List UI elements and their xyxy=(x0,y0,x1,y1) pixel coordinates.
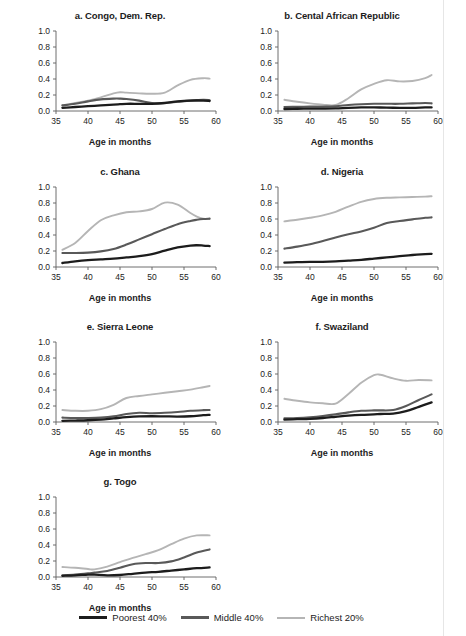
x-tick-label: 45 xyxy=(115,116,125,126)
y-tick-label: 0.4 xyxy=(38,540,50,550)
x-tick-label: 50 xyxy=(147,427,157,437)
x-tick-label: 60 xyxy=(211,116,221,126)
x-axis-title: Age in months xyxy=(236,293,448,303)
series-line-richest-20 xyxy=(62,202,209,249)
x-axis-title: Age in months xyxy=(14,137,226,147)
x-tick-label: 55 xyxy=(179,116,189,126)
x-tick-label: 40 xyxy=(305,427,315,437)
x-tick-label: 55 xyxy=(179,427,189,437)
chart-legend: Poorest 40%Middle 40%Richest 20% xyxy=(0,612,443,623)
x-tick-label: 55 xyxy=(179,272,189,282)
y-tick-label: 0.4 xyxy=(38,230,50,240)
panel-title: g. Togo xyxy=(14,476,226,487)
legend-label-richest: Richest 20% xyxy=(310,612,363,623)
series-line-poorest-40 xyxy=(284,107,431,109)
x-tick-label: 45 xyxy=(337,427,347,437)
x-tick-label: 50 xyxy=(147,272,157,282)
chart-panel-4: d. Nigeria0.00.20.40.60.81.0354045505560… xyxy=(236,166,448,311)
chart-panel-6: f. Swaziland0.00.20.40.60.81.03540455055… xyxy=(236,321,448,466)
plot-area: 0.00.20.40.60.81.0354045505560 xyxy=(14,23,226,133)
plot-area: 0.00.20.40.60.81.0354045505560 xyxy=(14,489,226,599)
x-tick-label: 35 xyxy=(273,116,283,126)
x-tick-label: 35 xyxy=(51,427,61,437)
panel-title: d. Nigeria xyxy=(236,166,448,177)
panel-title: f. Swaziland xyxy=(236,321,448,332)
chart-panel-1: a. Congo, Dem. Rep.0.00.20.40.60.81.0354… xyxy=(14,10,226,155)
x-tick-label: 60 xyxy=(433,272,443,282)
y-tick-label: 0.0 xyxy=(38,106,50,116)
y-tick-label: 0.4 xyxy=(260,230,272,240)
legend-item-poorest: Poorest 40% xyxy=(79,612,166,623)
x-tick-label: 45 xyxy=(337,272,347,282)
x-tick-label: 40 xyxy=(305,116,315,126)
y-tick-label: 0.6 xyxy=(260,369,272,379)
series-line-richest-20 xyxy=(284,374,431,404)
y-tick-label: 0.2 xyxy=(260,246,272,256)
y-tick-label: 0.2 xyxy=(38,401,50,411)
series-line-richest-20 xyxy=(284,196,431,221)
chart-panel-2: b. Cental African Republic0.00.20.40.60.… xyxy=(236,10,448,155)
x-tick-label: 55 xyxy=(401,272,411,282)
y-tick-label: 0.4 xyxy=(260,385,272,395)
y-tick-label: 0.0 xyxy=(38,417,50,427)
series-line-middle-40 xyxy=(62,549,209,575)
x-tick-label: 55 xyxy=(401,116,411,126)
legend-label-middle: Middle 40% xyxy=(214,612,264,623)
plot-area: 0.00.20.40.60.81.0354045505560 xyxy=(236,179,448,289)
figure-panel-grid: a. Congo, Dem. Rep.0.00.20.40.60.81.0354… xyxy=(0,0,466,636)
y-tick-label: 0.8 xyxy=(260,42,272,52)
y-tick-label: 0.6 xyxy=(38,214,50,224)
x-tick-label: 60 xyxy=(211,272,221,282)
y-tick-label: 0.8 xyxy=(260,353,272,363)
y-tick-label: 1.0 xyxy=(260,337,272,347)
y-tick-label: 1.0 xyxy=(38,492,50,502)
x-tick-label: 35 xyxy=(51,116,61,126)
legend-item-middle: Middle 40% xyxy=(181,612,264,623)
y-tick-label: 0.4 xyxy=(38,74,50,84)
series-line-poorest-40 xyxy=(284,254,431,263)
panel-title: e. Sierra Leone xyxy=(14,321,226,332)
x-tick-label: 50 xyxy=(147,116,157,126)
series-line-middle-40 xyxy=(62,219,209,253)
y-tick-label: 0.0 xyxy=(260,417,272,427)
x-tick-label: 35 xyxy=(273,272,283,282)
y-tick-label: 0.8 xyxy=(38,42,50,52)
legend-swatch-poorest xyxy=(79,616,107,619)
x-tick-label: 40 xyxy=(305,272,315,282)
plot-area: 0.00.20.40.60.81.0354045505560 xyxy=(14,334,226,444)
y-tick-label: 0.0 xyxy=(38,572,50,582)
y-tick-label: 0.6 xyxy=(260,214,272,224)
legend-swatch-middle xyxy=(181,616,209,619)
y-tick-label: 0.2 xyxy=(38,246,50,256)
legend-swatch-richest xyxy=(277,617,305,619)
y-tick-label: 0.4 xyxy=(38,385,50,395)
y-tick-label: 0.6 xyxy=(38,369,50,379)
y-tick-label: 0.8 xyxy=(260,198,272,208)
y-tick-label: 0.6 xyxy=(260,58,272,68)
series-line-middle-40 xyxy=(284,217,431,248)
chart-panel-7: g. Togo0.00.20.40.60.81.0354045505560Age… xyxy=(14,476,226,621)
x-tick-label: 40 xyxy=(83,427,93,437)
x-tick-label: 55 xyxy=(401,427,411,437)
series-line-richest-20 xyxy=(62,386,209,411)
y-tick-label: 0.2 xyxy=(260,401,272,411)
y-tick-label: 0.4 xyxy=(260,74,272,84)
x-tick-label: 50 xyxy=(369,116,379,126)
x-tick-label: 35 xyxy=(51,582,61,592)
panel-title: a. Congo, Dem. Rep. xyxy=(14,10,226,21)
chart-panel-3: c. Ghana0.00.20.40.60.81.0354045505560Ag… xyxy=(14,166,226,311)
y-tick-label: 0.8 xyxy=(38,353,50,363)
x-axis-title: Age in months xyxy=(14,293,226,303)
x-tick-label: 60 xyxy=(433,116,443,126)
x-axis-title: Age in months xyxy=(236,137,448,147)
plot-area: 0.00.20.40.60.81.0354045505560 xyxy=(236,334,448,444)
y-tick-label: 0.0 xyxy=(260,106,272,116)
y-tick-label: 0.6 xyxy=(38,524,50,534)
x-tick-label: 55 xyxy=(179,582,189,592)
panel-title: b. Cental African Republic xyxy=(236,10,448,21)
x-tick-label: 45 xyxy=(337,116,347,126)
y-tick-label: 0.8 xyxy=(38,198,50,208)
y-tick-label: 1.0 xyxy=(260,26,272,36)
y-tick-label: 0.8 xyxy=(38,508,50,518)
x-tick-label: 40 xyxy=(83,272,93,282)
